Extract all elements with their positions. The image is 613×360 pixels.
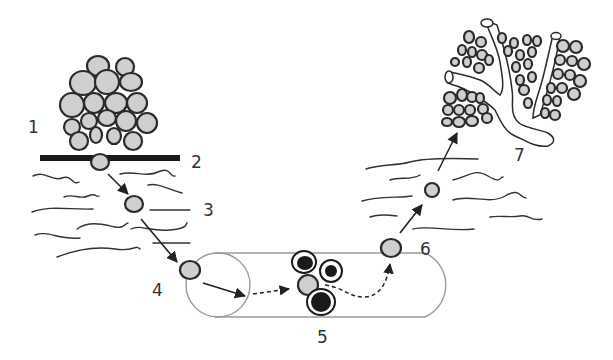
primary-tumor	[60, 56, 157, 150]
migrating-cell-secondary	[425, 183, 439, 197]
extravasating-cell	[381, 239, 401, 257]
migrating-cell	[125, 196, 143, 212]
step-label-2: 2	[191, 152, 202, 172]
basement-membrane	[40, 155, 180, 161]
circulating-cells	[292, 251, 342, 315]
step-label-3: 3	[203, 200, 214, 220]
step-label-1: 1	[28, 117, 39, 137]
intravasating-cell	[180, 261, 200, 279]
stroma-right	[362, 158, 542, 229]
step-label-7: 7	[514, 145, 525, 165]
step-label-4: 4	[152, 280, 163, 300]
metastasis-diagram: 1 2 3 4 5 6 7	[0, 0, 613, 360]
invading-cell	[91, 154, 109, 170]
step-label-5: 5	[317, 327, 328, 347]
secondary-site	[442, 19, 590, 146]
step-label-6: 6	[420, 239, 431, 259]
stroma-left	[32, 170, 190, 257]
